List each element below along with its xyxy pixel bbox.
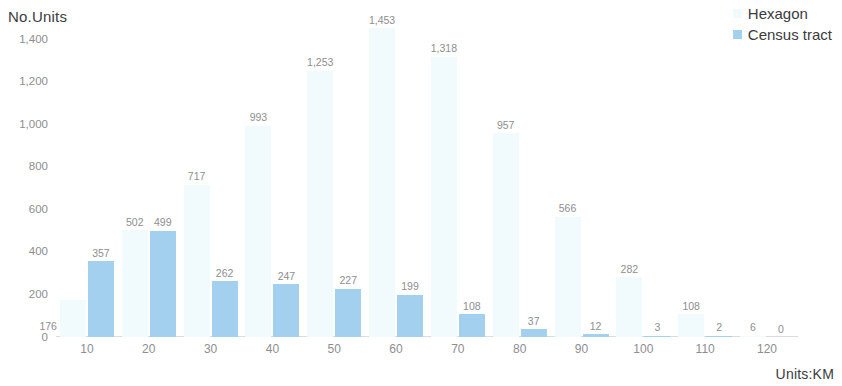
bar-census-tract[interactable]: 199 <box>397 295 423 337</box>
bar-census-tract[interactable]: 357 <box>88 261 114 337</box>
x-axis-tick-label: 110 <box>696 343 715 355</box>
bar-census-tract[interactable]: 2 <box>706 336 732 337</box>
bar-value-label: 227 <box>339 275 357 286</box>
bar-value-label: 957 <box>497 120 515 131</box>
plot-area: 02004006008001,0001,2001,400 17635710502… <box>56 18 798 337</box>
bar-chart: No.Units Hexagon Census tract 0200400600… <box>0 0 842 386</box>
bar-hexagon[interactable]: 1,318 <box>431 57 457 337</box>
bar-pair: 717262 <box>180 18 242 337</box>
bar-value-label: 0 <box>778 324 784 335</box>
bar-value-label: 1,453 <box>369 15 395 26</box>
bar-hexagon[interactable]: 957 <box>493 133 519 337</box>
bar-hexagon[interactable]: 993 <box>245 126 271 337</box>
bar-group: 1082110 <box>674 18 736 337</box>
bar-hexagon[interactable]: 502 <box>122 230 148 337</box>
x-axis-tick-label: 60 <box>389 343 402 355</box>
bar-hexagon[interactable]: 1,453 <box>369 28 395 337</box>
bar-hexagon[interactable]: 566 <box>555 217 581 337</box>
bar-value-label: 12 <box>590 321 602 332</box>
bar-hexagon[interactable]: 1,253 <box>307 71 333 337</box>
bar-group: 1,31810870 <box>427 18 489 337</box>
y-axis-tick-label: 1,000 <box>19 119 48 131</box>
y-axis-tick-label: 800 <box>29 161 48 173</box>
bar-hexagon[interactable]: 176 <box>60 300 86 337</box>
bar-pair: 176357 <box>56 18 118 337</box>
bar-pair: 1,453199 <box>365 18 427 337</box>
bar-value-label: 502 <box>126 217 144 228</box>
bar-pair: 1,318108 <box>427 18 489 337</box>
bar-value-label: 566 <box>559 203 577 214</box>
bar-pair: 993247 <box>241 18 303 337</box>
bar-value-label: 993 <box>250 112 268 123</box>
y-axis-tick-label: 1,200 <box>19 76 48 88</box>
bar-pair: 502499 <box>118 18 180 337</box>
bar-value-label: 247 <box>278 271 296 282</box>
bar-group: 1,25322750 <box>303 18 365 337</box>
bar-group: 2823100 <box>612 18 674 337</box>
bar-pair: 60 <box>736 18 798 337</box>
bar-value-label: 37 <box>528 316 540 327</box>
x-axis-title: Units:KM <box>776 366 834 382</box>
bar-group: 9573780 <box>489 18 551 337</box>
x-axis-tick-label: 50 <box>328 343 341 355</box>
bar-pair: 1082 <box>674 18 736 337</box>
bar-groups: 176357105024992071726230993247401,253227… <box>56 18 798 337</box>
bar-group: 5661290 <box>551 18 613 337</box>
y-axis-tick-label: 0 <box>42 331 48 343</box>
x-axis-tick-label: 100 <box>633 343 653 355</box>
bar-hexagon[interactable]: 717 <box>184 185 210 337</box>
y-axis-tick-label: 400 <box>29 246 48 258</box>
bar-census-tract[interactable]: 3 <box>644 336 670 337</box>
bar-group: 71726230 <box>180 18 242 337</box>
bar-hexagon[interactable]: 6 <box>740 336 766 337</box>
x-axis-tick-label: 10 <box>80 343 93 355</box>
bar-value-label: 108 <box>682 301 700 312</box>
x-axis-tick-label: 30 <box>204 343 217 355</box>
bar-census-tract[interactable]: 227 <box>335 289 361 337</box>
bar-value-label: 176 <box>39 321 57 332</box>
bar-census-tract[interactable]: 12 <box>583 334 609 337</box>
bar-value-label: 717 <box>188 171 206 182</box>
bar-value-label: 357 <box>92 248 110 259</box>
bar-hexagon[interactable]: 282 <box>616 277 642 337</box>
bar-group: 1,45319960 <box>365 18 427 337</box>
bar-census-tract[interactable]: 37 <box>521 329 547 337</box>
y-axis-tick-label: 1,400 <box>19 34 48 46</box>
bar-pair: 2823 <box>612 18 674 337</box>
bar-value-label: 499 <box>154 217 172 228</box>
x-axis-tick-label: 120 <box>757 343 777 355</box>
bar-census-tract[interactable]: 499 <box>150 231 176 337</box>
bar-value-label: 1,318 <box>431 43 457 54</box>
bar-pair: 56612 <box>551 18 613 337</box>
bar-census-tract[interactable]: 262 <box>212 281 238 337</box>
bar-hexagon[interactable]: 108 <box>678 314 704 337</box>
x-axis-tick-label: 80 <box>513 343 526 355</box>
x-axis-tick-label: 20 <box>142 343 155 355</box>
bar-group: 50249920 <box>118 18 180 337</box>
legend-swatch-hexagon <box>733 9 742 18</box>
bar-value-label: 262 <box>216 268 234 279</box>
bar-census-tract[interactable]: 247 <box>273 284 299 337</box>
bar-value-label: 3 <box>654 322 660 333</box>
bar-group: 60120 <box>736 18 798 337</box>
bar-value-label: 199 <box>401 281 419 292</box>
bar-pair: 1,253227 <box>303 18 365 337</box>
x-axis-tick-label: 90 <box>575 343 588 355</box>
bar-census-tract[interactable]: 108 <box>459 314 485 337</box>
x-axis-tick-label: 70 <box>451 343 464 355</box>
y-axis-tick-label: 200 <box>29 289 48 301</box>
bar-pair: 95737 <box>489 18 551 337</box>
y-axis-tick-label: 600 <box>29 204 48 216</box>
bar-value-label: 2 <box>716 322 722 333</box>
bar-value-label: 1,253 <box>307 57 333 68</box>
bar-group: 99324740 <box>241 18 303 337</box>
bar-group: 17635710 <box>56 18 118 337</box>
bar-value-label: 108 <box>463 301 481 312</box>
x-axis-tick-label: 40 <box>266 343 279 355</box>
bar-value-label: 6 <box>750 322 756 333</box>
bar-value-label: 282 <box>621 264 639 275</box>
